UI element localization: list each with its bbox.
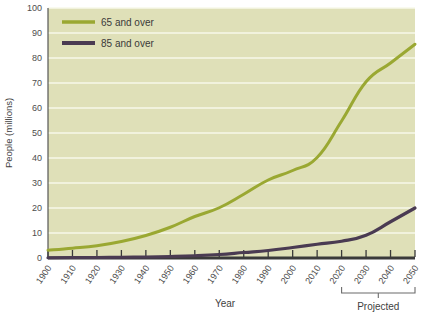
x-axis-title: Year [215,298,236,309]
x-tick-label: 2010 [303,263,323,285]
y-tick-label: 10 [32,228,42,238]
projected-annotation: Projected [342,287,415,312]
x-tick-label: 1910 [58,263,78,285]
y-tick-label: 80 [32,53,42,63]
x-tick-label: 2000 [279,263,299,285]
x-tick-label: 2050 [401,263,421,285]
y-axis-title: People (millions) [3,98,14,168]
x-tick-label: 1960 [181,263,201,285]
chart-container: 1900191019201930194019501960197019801990… [0,0,424,320]
x-tick-label: 2020 [328,263,348,285]
x-tick-label: 1950 [156,263,176,285]
legend-label-65-and-over: 65 and over [101,17,154,28]
y-tick-label: 20 [32,203,42,213]
x-tick-label: 2040 [376,263,396,285]
y-tick-label: 0 [37,253,42,263]
population-line-chart: 1900191019201930194019501960197019801990… [0,0,424,320]
y-tick-label: 60 [32,103,42,113]
projected-bracket [342,287,415,298]
y-tick-label: 70 [32,78,42,88]
y-tick-label: 30 [32,178,42,188]
y-axis-tick-labels: 0102030405060708090100 [27,3,42,263]
y-tick-label: 100 [27,3,42,13]
y-tick-label: 50 [32,128,42,138]
x-tick-label: 1970 [205,263,225,285]
x-tick-label: 1920 [83,263,103,285]
x-tick-label: 1900 [34,263,54,285]
x-tick-label: 1940 [132,263,152,285]
y-tick-label: 40 [32,153,42,163]
projected-label: Projected [357,301,399,312]
legend-label-85-and-over: 85 and over [101,38,154,49]
x-tick-label: 1990 [254,263,274,285]
x-tick-label: 2030 [352,263,372,285]
x-tick-label: 1980 [230,263,250,285]
x-tick-label: 1930 [107,263,127,285]
x-axis-tick-labels: 1900191019201930194019501960197019801990… [34,263,421,285]
y-tick-label: 90 [32,28,42,38]
